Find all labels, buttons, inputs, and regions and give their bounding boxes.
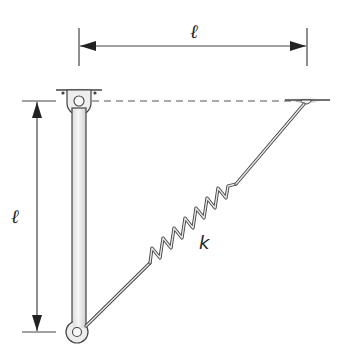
arrowhead-up-icon [32, 102, 42, 118]
arrowhead-right-icon [290, 41, 306, 51]
vertical-dimension [22, 101, 56, 332]
spring-constant-label: k [199, 232, 209, 253]
spring [86, 104, 304, 326]
horizontal-length-label: ℓ [190, 20, 198, 43]
arrowhead-down-icon [32, 315, 42, 331]
right-support [285, 91, 330, 104]
top-pin [74, 96, 84, 106]
arrowhead-left-icon [80, 41, 96, 51]
rod [66, 108, 88, 343]
pendulum-spring-diagram [0, 0, 358, 358]
bottom-pin [73, 328, 82, 337]
vertical-length-label: ℓ [11, 205, 19, 228]
